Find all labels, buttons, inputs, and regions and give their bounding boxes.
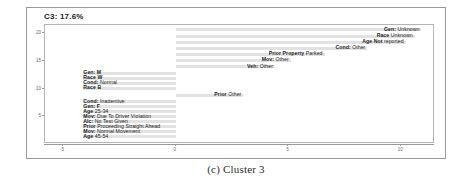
- bar-label: Veh: Other: [247, 63, 273, 69]
- x-tick-label: -5: [60, 147, 64, 152]
- figure-caption: (c) Cluster 3: [207, 163, 265, 175]
- x-tick-label: 0: [173, 147, 176, 152]
- bar-label-bold: Prior: [214, 91, 226, 97]
- bar-label-plain: 45-54: [93, 133, 108, 139]
- bar-label: Gen: Unknown: [384, 26, 420, 32]
- x-tick-mark: [62, 144, 63, 146]
- x-tick-label: 5: [286, 147, 289, 152]
- bar-label-plain: Normal: [99, 79, 118, 85]
- bar-label: Cond: Other: [335, 44, 365, 50]
- bar-label: Prior Other: [214, 91, 241, 97]
- bar-label-bold: Race: [377, 32, 390, 38]
- bar-label-plain: Other: [274, 56, 289, 62]
- figure-caption-box: (c) Cluster 3: [26, 158, 446, 179]
- bar-label-plain: Unknown: [396, 26, 419, 32]
- y-axis: 5101520: [24, 24, 44, 143]
- y-tick-label: 20: [36, 30, 41, 35]
- bar-label: Prior Property Parked: [269, 50, 323, 56]
- bar-label-bold: Cond:: [335, 44, 350, 50]
- bar-label-bold: Veh:: [247, 63, 258, 69]
- bar-label-plain: Other: [227, 91, 242, 97]
- bar-label-bold: Age: [83, 133, 93, 139]
- bar-label-plain: Unknown: [389, 32, 412, 38]
- bar-label: Age 45-54: [83, 133, 108, 139]
- bar-label-plain: Other: [351, 44, 366, 50]
- y-tick-mark: [42, 60, 44, 61]
- chart-title: C3: 17.6%: [44, 12, 84, 21]
- y-tick-mark: [42, 88, 44, 89]
- x-tick-label: 10: [398, 147, 403, 152]
- bar-label: Age Not reported: [362, 38, 403, 44]
- bar-label-bold: Race B: [83, 84, 101, 90]
- y-tick-mark: [42, 115, 44, 116]
- y-tick-label: 10: [36, 85, 41, 90]
- bar-label: Race B: [83, 84, 101, 90]
- y-tick-label: 5: [38, 113, 41, 118]
- y-tick-label: 15: [36, 57, 41, 62]
- x-axis-line: [44, 144, 434, 145]
- bar-label-plain: Inattentive: [99, 98, 125, 104]
- bar-label-bold: Prior Property: [269, 50, 305, 56]
- bar-label-plain: Parked: [304, 50, 322, 56]
- x-tick-mark: [287, 144, 288, 146]
- bar-label-plain: Other: [258, 63, 273, 69]
- x-tick-mark: [175, 144, 176, 146]
- bar-label-plain: reported: [382, 38, 403, 44]
- x-axis: -50510: [44, 144, 434, 156]
- x-tick-mark: [400, 144, 401, 146]
- figure-panel: C3: 17.6% 5101520 -50510 Gen: UnknownRac…: [0, 0, 455, 189]
- bar-label-bold: Gen:: [384, 26, 396, 32]
- y-tick-mark: [42, 32, 44, 33]
- bar-label: Race Unknown: [377, 32, 413, 38]
